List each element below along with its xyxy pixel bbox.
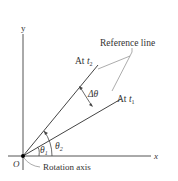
y-axis-label: y [21,23,26,33]
reference-leader-t1 [112,56,130,91]
theta2-label: θ2 [55,141,63,152]
theta1-label: θ1 [40,145,48,156]
reference-leader-tick [130,48,132,56]
origin-label: O [13,159,20,169]
at-t2-label: At t2 [75,56,93,67]
at-t1-label: At t1 [117,94,135,105]
line-at-t2 [23,65,98,156]
delta-theta-label: Δθ [87,89,99,99]
rotation-axis-label: Rotation axis [43,162,91,172]
delta-theta-arrow-top [79,86,83,90]
theta1-arc [37,147,39,156]
reference-line-label: Reference line [100,38,155,48]
rotation-diagram: y x O Reference line At t2 At t1 Δθ θ1 θ… [0,0,178,181]
x-axis-label: x [153,151,158,161]
delta-theta-arrow-bottom [89,103,93,107]
rotation-axis-leader [24,158,40,167]
reference-leader-t2 [98,56,130,69]
origin-point [21,154,25,158]
